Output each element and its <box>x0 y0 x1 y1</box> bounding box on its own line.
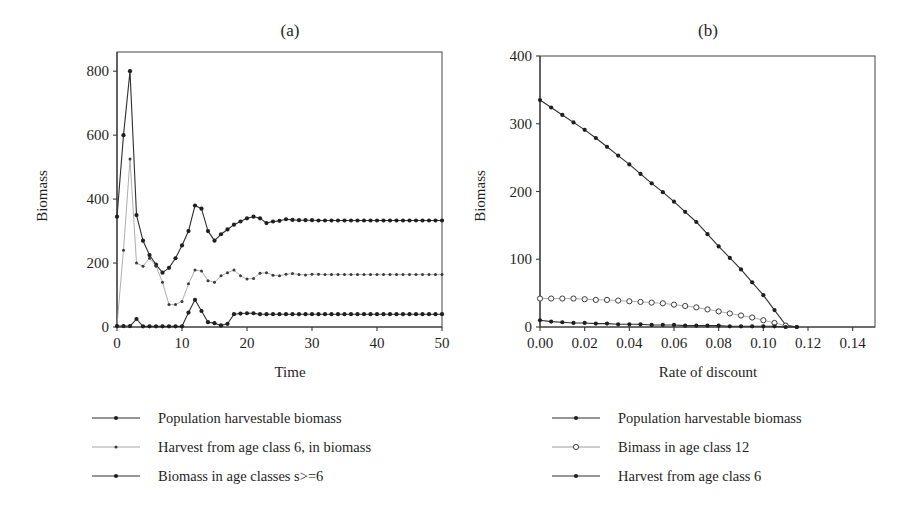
legend-item: Harvest from age class 6, in biomass <box>92 439 371 455</box>
data-point <box>225 227 229 231</box>
data-point <box>134 317 138 321</box>
data-point <box>427 312 431 316</box>
data-point <box>368 312 372 316</box>
x-tick-label: 30 <box>305 335 320 351</box>
data-point <box>560 296 565 301</box>
data-point <box>694 305 699 310</box>
chart-panel-a: (a)020040060080001020304050TimeBiomassPo… <box>0 0 460 505</box>
legend-label: Harvest from age class 6 <box>618 468 761 484</box>
data-point <box>265 271 268 274</box>
data-point <box>329 218 333 222</box>
data-point <box>593 297 598 302</box>
data-point <box>761 293 765 297</box>
data-point <box>115 324 119 328</box>
data-point <box>115 215 119 219</box>
data-point <box>128 69 132 73</box>
data-point <box>420 312 424 316</box>
x-tick-label: 20 <box>240 335 255 351</box>
data-point <box>549 296 554 301</box>
series-1 <box>116 158 444 327</box>
data-point <box>342 312 346 316</box>
data-point <box>369 273 372 276</box>
data-point <box>739 267 743 271</box>
y-tick-label: 100 <box>510 251 533 267</box>
data-point <box>271 312 275 316</box>
data-point <box>627 162 631 166</box>
data-point <box>251 311 255 315</box>
x-tick-label: 0.14 <box>840 335 867 351</box>
x-tick-label: 0.10 <box>750 335 776 351</box>
data-point <box>355 218 359 222</box>
data-point <box>147 253 151 257</box>
data-point <box>161 281 164 284</box>
y-tick-label: 400 <box>87 191 110 207</box>
series-0 <box>115 69 444 275</box>
chart-panel-b: (b)01002003004000.000.020.040.060.080.10… <box>458 0 918 505</box>
y-tick-label: 0 <box>102 319 110 335</box>
data-point <box>225 322 229 326</box>
data-point <box>772 308 776 312</box>
data-point <box>750 324 754 328</box>
data-point <box>291 272 294 275</box>
data-point <box>388 218 392 222</box>
data-point <box>428 273 431 276</box>
data-point <box>401 312 405 316</box>
series-line <box>117 159 442 325</box>
data-point <box>571 296 576 301</box>
data-point <box>560 320 564 324</box>
y-tick-label: 200 <box>87 255 110 271</box>
data-point <box>180 243 184 247</box>
x-tick-label: 40 <box>370 335 385 351</box>
data-point <box>440 218 444 222</box>
data-point <box>694 324 698 328</box>
legend-label: Population harvestable biomass <box>158 410 342 426</box>
data-point <box>252 277 255 280</box>
data-point <box>304 273 307 276</box>
data-point <box>264 312 268 316</box>
data-point <box>114 416 118 420</box>
data-point <box>616 153 620 157</box>
data-point <box>705 324 709 328</box>
data-point <box>329 312 333 316</box>
data-point <box>650 323 654 327</box>
data-point <box>298 273 301 276</box>
data-point <box>594 322 598 326</box>
data-point <box>549 105 553 109</box>
legend-item: Bimass in age class 12 <box>552 439 749 455</box>
data-point <box>324 273 327 276</box>
data-point <box>408 273 411 276</box>
data-point <box>134 213 138 217</box>
data-point <box>441 273 444 276</box>
data-point <box>627 322 631 326</box>
data-point <box>616 298 621 303</box>
data-point <box>583 321 587 325</box>
data-point <box>795 325 799 329</box>
data-point <box>303 218 307 222</box>
data-point <box>414 312 418 316</box>
y-axis-label: Biomass <box>472 170 488 222</box>
data-point <box>251 215 255 219</box>
data-point <box>168 303 171 306</box>
legend-item: Harvest from age class 6 <box>552 468 761 484</box>
data-point <box>148 257 151 260</box>
legend-item: Biomass in age classes s>=6 <box>92 468 323 484</box>
data-point <box>337 273 340 276</box>
data-point <box>193 298 197 302</box>
legend-label: Biomass in age classes s>=6 <box>158 468 323 484</box>
data-point <box>154 324 158 328</box>
data-point <box>750 280 754 284</box>
data-point <box>173 256 177 260</box>
data-point <box>382 273 385 276</box>
data-point <box>661 323 665 327</box>
data-point <box>356 273 359 276</box>
data-point <box>683 303 688 308</box>
data-point <box>285 273 288 276</box>
data-point <box>238 219 242 223</box>
legend-label: Population harvestable biomass <box>618 410 802 426</box>
data-point <box>297 312 301 316</box>
data-point <box>537 296 542 301</box>
data-point <box>141 324 145 328</box>
data-point <box>219 323 223 327</box>
data-point <box>705 307 710 312</box>
data-point <box>394 312 398 316</box>
